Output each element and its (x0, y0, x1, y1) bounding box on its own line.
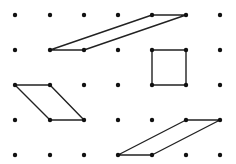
grid-dot (48, 48, 52, 52)
grid-dot (116, 13, 120, 17)
grid-dot (218, 153, 222, 157)
grid-dot (150, 13, 154, 17)
grid-dot (48, 118, 52, 122)
grid-dot (82, 153, 86, 157)
grid-dot (184, 153, 188, 157)
diagram-svg (0, 0, 236, 164)
grid-dot (82, 13, 86, 17)
parallelogram-top (50, 15, 186, 50)
grid-dot (150, 48, 154, 52)
grid-dot (184, 13, 188, 17)
grid-dot (218, 118, 222, 122)
grid-dot (48, 13, 52, 17)
grid-dot (150, 83, 154, 87)
grid-dot (48, 153, 52, 157)
parallelogram-left (15, 85, 84, 120)
grid-dot (116, 48, 120, 52)
grid-dot (82, 83, 86, 87)
grid-dot (218, 48, 222, 52)
grid-dot (82, 48, 86, 52)
grid-dot (150, 153, 154, 157)
grid-dot (116, 83, 120, 87)
grid-dot (116, 153, 120, 157)
grid-dot (184, 83, 188, 87)
grid-dot (48, 83, 52, 87)
grid-dot (82, 118, 86, 122)
grid-dot (184, 48, 188, 52)
grid-dot (150, 118, 154, 122)
grid-dot (184, 118, 188, 122)
grid-dot (13, 83, 17, 87)
grid-dot (116, 118, 120, 122)
square (152, 50, 186, 85)
grid-dot (13, 153, 17, 157)
grid-dot (218, 13, 222, 17)
grid-dot (13, 118, 17, 122)
grid-dot (218, 83, 222, 87)
grid-dot (13, 13, 17, 17)
dot-grid-diagram (0, 0, 236, 164)
parallelogram-bottom (118, 120, 220, 155)
grid-dot (13, 48, 17, 52)
